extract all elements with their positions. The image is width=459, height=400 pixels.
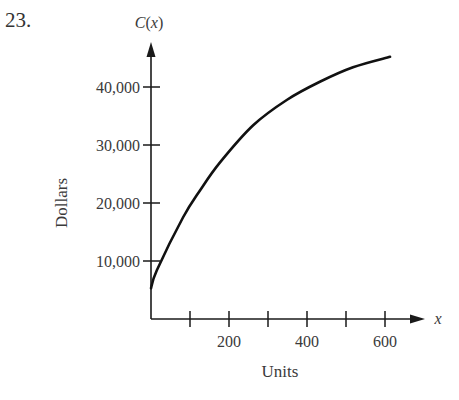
cost-function-chart: 20040060010,00020,00030,00040,000 C(x) x… (0, 0, 459, 400)
x-tick-label: 200 (217, 333, 241, 350)
x-axis-arrow-icon (410, 315, 425, 324)
axes (147, 42, 426, 324)
y-tick-label: 10,000 (96, 253, 140, 270)
y-axis-label: Dollars (52, 178, 71, 228)
x-axis-label: Units (262, 362, 299, 381)
y-tick-label: 30,000 (96, 137, 140, 154)
function-label: C(x) (135, 14, 163, 32)
y-tick-label: 40,000 (96, 79, 140, 96)
x-tick-label: 600 (373, 333, 397, 350)
tick-marks (143, 87, 385, 327)
tick-labels: 20040060010,00020,00030,00040,000 (96, 79, 397, 351)
x-axis-symbol: x (433, 310, 441, 327)
cost-curve (151, 57, 390, 288)
y-tick-label: 20,000 (96, 195, 140, 212)
y-axis-arrow-icon (147, 42, 156, 57)
x-tick-label: 400 (295, 333, 319, 350)
